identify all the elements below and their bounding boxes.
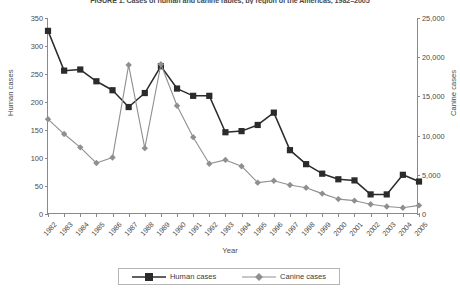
x-axis-tick-label: 1988	[138, 220, 155, 238]
data-point-marker	[174, 85, 180, 91]
x-axis-tick-label: 1986	[106, 220, 123, 238]
data-point-marker	[142, 145, 148, 151]
data-point-marker	[416, 202, 422, 208]
x-axis-tick-label: 2004	[396, 220, 413, 238]
data-point-marker	[222, 157, 228, 163]
legend-square-icon	[132, 268, 166, 286]
x-axis-tick-label: 1982	[41, 220, 58, 238]
data-point-marker	[271, 177, 277, 183]
y-axis-left-label: Human cases	[6, 70, 15, 116]
legend-item[interactable]: Human cases	[132, 268, 216, 286]
y-axis-right-tick-label: 0	[422, 210, 426, 219]
data-point-marker	[384, 191, 390, 197]
data-point-marker	[335, 196, 341, 202]
data-point-marker	[287, 147, 293, 153]
x-axis-tick-label: 1989	[154, 220, 171, 238]
data-point-marker	[416, 178, 422, 184]
y-axis-right-tick-label: 15,000	[422, 92, 445, 101]
y-axis-left-tick-label: 300	[31, 42, 43, 51]
x-axis-tick-label: 2000	[332, 220, 349, 238]
data-point-marker	[109, 87, 115, 93]
y-axis-right-tick-label: 10,000	[422, 131, 445, 140]
data-point-marker	[319, 171, 325, 177]
x-axis-tick-label: 1997	[283, 220, 300, 238]
data-point-marker	[125, 62, 131, 68]
data-point-marker	[93, 78, 99, 84]
data-point-marker	[174, 103, 180, 109]
data-point-marker	[303, 161, 309, 167]
x-axis-tick-label: 1987	[122, 220, 139, 238]
y-axis-left-tick-label: 50	[35, 182, 43, 191]
data-point-marker	[142, 90, 148, 96]
data-point-marker	[61, 68, 67, 74]
x-axis-tick-label: 1985	[90, 220, 107, 238]
y-axis-left-tick-label: 350	[31, 14, 43, 23]
data-point-marker	[400, 205, 406, 211]
y-axis-left-tick-label: 250	[31, 70, 43, 79]
x-axis-tick-label: 1996	[267, 220, 284, 238]
x-axis-tick-label: 1984	[74, 220, 91, 238]
legend-diamond-icon	[242, 268, 276, 286]
data-point-marker	[190, 93, 196, 99]
x-axis-tick-label: 1994	[235, 220, 252, 238]
data-point-marker	[126, 104, 132, 110]
data-point-marker	[238, 128, 244, 134]
x-axis-tick-label: 1992	[203, 220, 220, 238]
x-axis-tick-label: 2001	[348, 220, 365, 238]
figure-container: FIGURE 1. Cases of human and canine rabi…	[0, 0, 460, 294]
data-point-marker	[206, 161, 212, 167]
data-point-marker	[287, 182, 293, 188]
data-point-marker	[367, 201, 373, 207]
x-axis-tick-mark	[419, 213, 420, 217]
series-line-human-cases	[48, 31, 419, 195]
x-axis-tick-label: 1995	[251, 220, 268, 238]
y-axis-left-tick-label: 0	[39, 210, 43, 219]
data-point-marker	[368, 191, 374, 197]
data-point-marker	[335, 176, 341, 182]
data-point-marker	[319, 190, 325, 196]
data-point-marker	[271, 110, 277, 116]
data-point-marker	[190, 134, 196, 140]
y-axis-right-tick-label: 25,000	[422, 14, 445, 23]
data-point-marker	[351, 177, 357, 183]
x-axis-tick-label: 2003	[380, 220, 397, 238]
y-axis-left-tick-label: 100	[31, 154, 43, 163]
y-axis-left-tick-label: 150	[31, 126, 43, 135]
data-point-marker	[303, 185, 309, 191]
x-axis-tick-label: 1990	[170, 220, 187, 238]
x-axis-tick-label: 1991	[186, 220, 203, 238]
legend-label: Human cases	[170, 272, 216, 281]
y-axis-right-tick-label: 5,000	[422, 170, 441, 179]
data-point-marker	[45, 28, 51, 34]
y-axis-right-tick-label: 20,000	[422, 53, 445, 62]
x-axis-tick-label: 1999	[315, 220, 332, 238]
y-axis-right-label: Canine cases	[449, 70, 458, 116]
data-point-marker	[222, 129, 228, 135]
data-point-marker	[351, 197, 357, 203]
data-point-marker	[109, 154, 115, 160]
data-point-marker	[206, 93, 212, 99]
data-point-marker	[77, 66, 83, 72]
x-axis-tick-label: 2002	[364, 220, 381, 238]
x-axis-tick-label: 1983	[57, 220, 74, 238]
data-point-marker	[384, 203, 390, 209]
legend-item[interactable]: Canine cases	[242, 268, 326, 286]
data-point-marker	[255, 122, 261, 128]
x-axis-label: Year	[0, 246, 460, 255]
data-point-marker	[400, 172, 406, 178]
x-axis-tick-label: 2005	[412, 220, 429, 238]
legend-label: Canine cases	[280, 272, 326, 281]
x-axis-tick-label: 1993	[219, 220, 236, 238]
plot-area: 050100150200250300350 05,00010,00015,000…	[47, 18, 418, 214]
series-lines	[48, 18, 419, 214]
figure-title: FIGURE 1. Cases of human and canine rabi…	[0, 0, 460, 4]
y-axis-left-tick-label: 200	[31, 98, 43, 107]
x-axis-tick-label: 1998	[299, 220, 316, 238]
chart-legend: Human casesCanine cases	[118, 268, 340, 285]
